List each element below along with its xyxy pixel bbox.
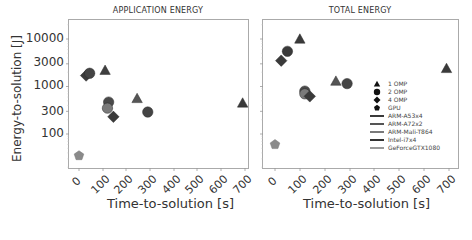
triangle-marker — [331, 76, 341, 85]
line-swatch-icon — [370, 131, 384, 134]
legend: 1 OMP2 OMP4 OMPGPU ARM-A53x4ARM-A72x2ARM… — [370, 80, 440, 152]
line-swatch-icon — [370, 123, 384, 126]
pentagon-marker — [270, 140, 280, 149]
legend-item: 1 OMP — [370, 80, 440, 88]
legend-label: GeForceGTX1080 — [388, 144, 440, 152]
legend-item: Intel-i7x4 — [370, 136, 440, 144]
triangle-icon — [370, 80, 384, 88]
legend-item: GPU — [370, 104, 440, 112]
triangle-marker — [441, 63, 451, 72]
circle-marker — [342, 78, 352, 88]
legend-label: 4 OMP — [388, 96, 407, 104]
diamond-icon — [370, 96, 384, 104]
legend-label: ARM-Mali-T864 — [388, 128, 433, 136]
triangle-marker — [295, 34, 305, 43]
legend-label: 2 OMP — [388, 88, 407, 96]
diamond-marker — [275, 55, 286, 66]
legend-label: Intel-i7x4 — [388, 136, 416, 144]
right-x-axis-label: Time-to-solution [s] — [303, 196, 430, 211]
legend-label: ARM-A53x4 — [388, 112, 423, 120]
legend-item: 4 OMP — [370, 96, 440, 104]
line-swatch-icon — [370, 147, 384, 150]
legend-item: ARM-A53x4 — [370, 112, 440, 120]
legend-item: GeForceGTX1080 — [370, 144, 440, 152]
legend-label: GPU — [388, 104, 401, 112]
legend-label: 1 OMP — [388, 80, 407, 88]
legend-label: ARM-A72x2 — [388, 120, 423, 128]
legend-item: ARM-A72x2 — [370, 120, 440, 128]
circle-marker — [282, 46, 292, 56]
line-swatch-icon — [370, 115, 384, 118]
line-swatch-icon — [370, 139, 384, 142]
pentagon-icon — [370, 104, 384, 112]
legend-item: ARM-Mali-T864 — [370, 128, 440, 136]
circle-icon — [370, 88, 384, 96]
legend-item: 2 OMP — [370, 88, 440, 96]
